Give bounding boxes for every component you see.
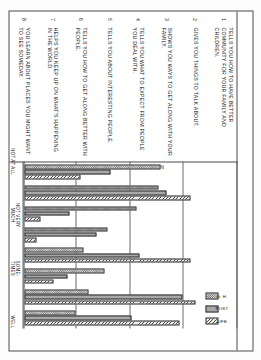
bar-post (24, 211, 69, 216)
bar-life (24, 216, 40, 221)
legend-item: G. H. (205, 290, 235, 301)
figure-top-band (236, 11, 252, 350)
question-text: TELLS YOU WHAT TO EXPECT FROM PEOPLE YOU… (131, 27, 144, 161)
bar-gh (24, 164, 160, 169)
question-number: 1 (220, 11, 226, 27)
bar-gh (24, 185, 158, 190)
bar-post (24, 169, 110, 174)
question-number: 5 (106, 11, 112, 27)
axis-tick-labels: NOT AT ALLNOT VERY MUCHSOME- TIMESWELLQU… (9, 161, 23, 328)
legend-label: POST (219, 302, 235, 315)
bar-gh (24, 206, 136, 211)
legend-label: LIFE (219, 316, 235, 326)
legend-label: G. H. (219, 290, 235, 301)
figure-frame: 1TELLS YOU HOW TO HAVE BETTER COMMUNITY … (8, 10, 253, 351)
question-number: 4 (134, 11, 140, 27)
question-number: 3 (163, 11, 169, 27)
axis-tick-label: NOT AT ALL (9, 146, 14, 176)
bar-life (24, 174, 80, 179)
question-text: TELLS YOU HOW TO HAVE BETTER COMMUNITY F… (213, 27, 233, 161)
question-text: YOU LEARN ABOUT PLACES YOU MIGHT WANT TO… (17, 27, 30, 161)
bar-post (24, 274, 67, 279)
chart-legend: G. H.POSTLIFE (205, 290, 235, 326)
question-row: 5TELLS YOU ABOUT INTERESTING PEOPLE. (95, 11, 124, 161)
figure-page: 1TELLS YOU HOW TO HAVE BETTER COMMUNITY … (0, 0, 261, 360)
bar-post (24, 232, 96, 237)
question-text: GIVES YOU THINGS TO TALK ABOUT. (191, 27, 198, 161)
bar-group (24, 224, 237, 245)
axis-tick-label: WELL (9, 307, 14, 337)
bar-post (24, 315, 131, 320)
bar-gh (24, 310, 75, 315)
axis-tick-label: NOT VERY MUCH (9, 200, 19, 230)
question-label-column: 1TELLS YOU HOW TO HAVE BETTER COMMUNITY … (9, 11, 237, 162)
plot-area: SOCIAL ORIENTATION NOT AT ALLNOT VERY MU… (9, 161, 237, 350)
bar-gh (24, 289, 88, 294)
bar-gh (24, 247, 83, 252)
question-row: 4TELLS YOU WHAT TO EXPECT FROM PEOPLE YO… (123, 11, 152, 161)
question-number: 8 (20, 11, 26, 27)
bar-life (24, 258, 190, 263)
question-row: 6TELLS YOU HOW TO GET ALONG BETTER WITH … (66, 11, 95, 161)
question-row: 1TELLS YOU HOW TO HAVE BETTER COMMUNITY … (209, 11, 238, 161)
question-text: HELPS YOU KEEP UP ON WHAT'S HAPPENING IN… (45, 27, 58, 161)
bar-post (24, 253, 139, 258)
bar-life (24, 300, 195, 305)
bar-group (24, 265, 237, 286)
bar-life (24, 320, 179, 325)
axis-tick-label: SOME- TIMES (9, 253, 19, 283)
question-text: TELLS YOU ABOUT INTERESTING PEOPLE. (105, 27, 112, 161)
question-text: TELLS YOU HOW TO GET ALONG BETTER WITH P… (74, 27, 87, 161)
bar-post (24, 294, 182, 299)
bar-group (24, 182, 237, 203)
rotated-figure: 1TELLS YOU HOW TO HAVE BETTER COMMUNITY … (0, 0, 261, 360)
question-number: 6 (77, 11, 83, 27)
bar-life (24, 195, 190, 200)
question-row: 7HELPS YOU KEEP UP ON WHAT'S HAPPENING I… (38, 11, 67, 161)
question-number: 7 (49, 11, 55, 27)
bar-group (24, 203, 237, 224)
bar-gh (24, 227, 107, 232)
question-row: 3SHOWS YOU WAYS TO GET ALONG WITH YOUR F… (152, 11, 181, 161)
bar-life (24, 279, 53, 284)
bar-life (24, 237, 36, 242)
question-row: 2GIVES YOU THINGS TO TALK ABOUT. (180, 11, 209, 161)
legend-item: LIFE (205, 316, 235, 326)
bar-gh (24, 268, 104, 273)
question-text: SHOWS YOU WAYS TO GET ALONG WITH YOUR FA… (159, 27, 172, 161)
legend-item: POST (205, 302, 235, 315)
question-number: 2 (191, 11, 197, 27)
question-row: 8YOU LEARN ABOUT PLACES YOU MIGHT WANT T… (9, 11, 38, 161)
bar-post (24, 190, 166, 195)
bar-group (24, 245, 237, 266)
bar-group (24, 161, 237, 182)
